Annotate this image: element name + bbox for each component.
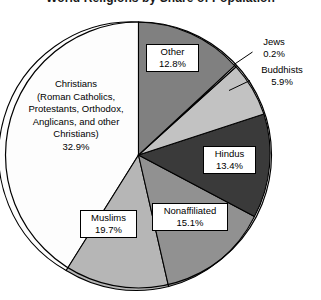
slice-label-buddhists: Buddhists 5.9% bbox=[249, 64, 315, 87]
nonaffiliated-name: Nonaffiliated bbox=[156, 205, 224, 217]
slice-label-christians: Christians (Roman Catholics, Protestants… bbox=[14, 78, 138, 153]
slice-label-other: Other 12.8% bbox=[146, 44, 199, 72]
christians-line-5: Christians) bbox=[14, 128, 138, 141]
other-value: 12.8% bbox=[150, 58, 195, 70]
christians-line-4: Anglicans, and other bbox=[14, 116, 138, 129]
christians-line-6: 32.9% bbox=[14, 141, 138, 154]
buddhists-name: Buddhists bbox=[249, 64, 315, 76]
other-name: Other bbox=[150, 46, 195, 58]
slice-label-jews: Jews 0.2% bbox=[250, 36, 298, 59]
christians-line-1: Christians bbox=[14, 78, 138, 91]
hindus-name: Hindus bbox=[207, 148, 252, 160]
pie-chart: World Religions by Share of Population C… bbox=[0, 0, 321, 300]
christians-line-2: (Roman Catholics, bbox=[14, 91, 138, 104]
slice-label-muslims: Muslims 19.7% bbox=[80, 210, 137, 238]
hindus-value: 13.4% bbox=[207, 160, 252, 172]
jews-value: 0.2% bbox=[250, 48, 298, 60]
muslims-name: Muslims bbox=[84, 212, 133, 224]
buddhists-value: 5.9% bbox=[249, 76, 315, 88]
slice-label-hindus: Hindus 13.4% bbox=[203, 146, 256, 174]
muslims-value: 19.7% bbox=[84, 224, 133, 236]
slice-label-nonaffiliated: Nonaffiliated 15.1% bbox=[152, 203, 228, 231]
christians-line-3: Protestants, Orthodox, bbox=[14, 103, 138, 116]
jews-name: Jews bbox=[250, 36, 298, 48]
nonaffiliated-value: 15.1% bbox=[156, 217, 224, 229]
